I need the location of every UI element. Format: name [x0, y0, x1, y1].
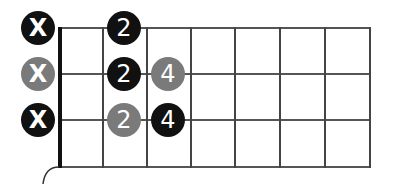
bracket-curve-icon	[40, 166, 80, 194]
finger-dot: 2	[107, 103, 141, 137]
fret-line-5	[279, 27, 281, 168]
muted-string-marker: X	[21, 57, 55, 91]
muted-string-marker: X	[21, 11, 55, 45]
fret-line-6	[324, 27, 326, 168]
finger-dot: 4	[151, 57, 185, 91]
fret-line-2	[146, 27, 148, 168]
finger-dot: 2	[107, 57, 141, 91]
fret-line-1	[102, 27, 104, 168]
finger-dot: 2	[107, 11, 141, 45]
fret-line-3	[190, 27, 192, 168]
chord-diagram: X X X 2 2 4 2 4	[0, 0, 394, 194]
fret-line-4	[234, 27, 236, 168]
muted-string-marker: X	[21, 103, 55, 137]
fret-line-7	[369, 27, 371, 168]
nut	[58, 27, 62, 168]
finger-dot: 4	[151, 103, 185, 137]
